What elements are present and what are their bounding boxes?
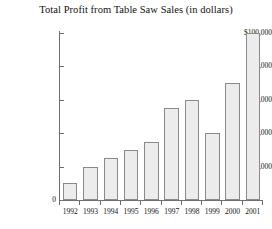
bar	[63, 183, 78, 200]
x-axis-tick-label: 1994	[101, 207, 121, 216]
x-axis-tick-mark	[59, 200, 60, 205]
y-axis-tick-mark	[59, 33, 64, 34]
x-axis-tick-label: 1996	[141, 207, 161, 216]
y-axis-line	[59, 31, 60, 201]
plot-area: 0$20,000$40,000$60,000$80,000$100,000 19…	[0, 0, 272, 229]
x-axis-tick-mark	[221, 200, 222, 205]
x-axis-tick-label: 1992	[60, 207, 80, 216]
x-axis-tick-mark	[140, 200, 141, 205]
x-axis-tick-mark	[262, 200, 263, 205]
y-axis-tick-label-0: 0	[45, 196, 56, 204]
bar	[104, 158, 119, 200]
bar	[205, 133, 220, 200]
bar	[164, 108, 179, 200]
x-axis-tick-label: 1998	[182, 207, 202, 216]
bar	[246, 33, 261, 200]
x-axis-tick-label: 2001	[243, 207, 263, 216]
x-axis-tick-mark	[201, 200, 202, 205]
bar-chart-figure: Total Profit from Table Saw Sales (in do…	[0, 0, 272, 229]
x-axis-tick-mark	[120, 200, 121, 205]
x-axis-tick-mark	[242, 200, 243, 205]
x-axis-tick-mark	[100, 200, 101, 205]
x-axis-tick-label: 1993	[80, 207, 100, 216]
bar	[144, 142, 159, 200]
bar	[124, 150, 139, 200]
bar	[185, 100, 200, 200]
y-axis-tick-mark	[59, 133, 64, 134]
y-axis-tick-mark	[59, 167, 64, 168]
x-axis-tick-label: 1997	[162, 207, 182, 216]
x-axis-tick-mark	[79, 200, 80, 205]
bar	[83, 167, 98, 200]
y-axis-tick-mark	[59, 100, 64, 101]
x-axis-tick-mark	[161, 200, 162, 205]
x-axis-tick-mark	[181, 200, 182, 205]
x-axis-tick-label: 2000	[222, 207, 242, 216]
bar	[225, 83, 240, 200]
x-axis-tick-label: 1999	[202, 207, 222, 216]
y-axis-tick-mark	[59, 66, 64, 67]
x-axis-tick-label: 1995	[121, 207, 141, 216]
